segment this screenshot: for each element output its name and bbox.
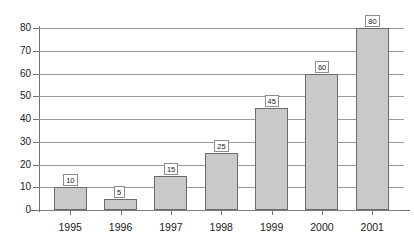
bar-value-label: 5 [114,186,125,198]
y-tick-label-wrap: 0 [0,205,31,215]
y-tick-label-wrap: 60 [0,69,31,79]
bar-value-label: 60 [315,61,329,73]
x-tick-mark [171,211,172,215]
x-tick-mark [121,211,122,215]
y-tick-label-wrap: 40 [0,114,31,124]
y-tick-label: 20 [3,160,31,170]
y-tick-label: 80 [3,23,31,33]
x-tick-mark [221,211,222,215]
y-tick-label-wrap: 10 [0,182,31,192]
x-tick-mark [322,211,323,215]
y-tick-label-wrap: 50 [0,91,31,101]
y-tick-label: 10 [3,182,31,192]
gridline [39,119,404,120]
y-tick-label-wrap: 70 [0,46,31,56]
bar[interactable] [305,74,338,211]
bar[interactable] [255,108,288,210]
bar-value-label: 15 [164,163,178,175]
y-tick-label: 30 [3,137,31,147]
bar-value-label: 45 [265,95,279,107]
y-tick-label: 70 [3,46,31,56]
bar-value-label: 25 [214,140,228,152]
bar[interactable] [104,199,137,210]
gridline [39,96,404,97]
y-tick-label-wrap: 30 [0,137,31,147]
y-tick-label-wrap: 20 [0,160,31,170]
bar[interactable] [54,187,87,210]
y-tick-label: 60 [3,69,31,79]
x-tick-mark [372,211,373,215]
bar[interactable] [154,176,187,210]
y-tick-label: 0 [3,205,31,215]
y-tick-label: 40 [3,114,31,124]
x-tick-mark [272,211,273,215]
gridline [39,74,404,75]
bar-chart: 01020304050607080 1051525456080 19951996… [0,0,414,247]
bar[interactable] [205,153,238,210]
y-tick-label-wrap: 80 [0,23,31,33]
bar[interactable] [356,28,389,210]
bar-value-label: 80 [365,15,379,27]
plot-area: 1051525456080 [39,28,404,210]
x-tick-label: 2001 [342,221,402,233]
y-tick-label: 50 [3,91,31,101]
x-tick-mark [70,211,71,215]
gridline [39,51,404,52]
bar-value-label: 10 [63,174,77,186]
gridline [39,28,404,29]
